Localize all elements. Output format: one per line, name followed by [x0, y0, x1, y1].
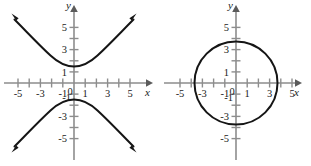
- x-axis-label: x: [293, 86, 299, 98]
- x-tick-label-1: 1: [83, 88, 88, 99]
- x-tick-label-neg5: -5: [176, 88, 185, 99]
- hyperbola-graph-panel: -5 -3 -1 1 3 5 5 3 1 -1 -3 -5 0 x y: [0, 0, 158, 166]
- x-tick-label-5: 5: [127, 88, 132, 99]
- x-tick-label-neg5: -5: [14, 88, 23, 99]
- y-tick-label-5: 5: [62, 22, 67, 33]
- y-tick-label-neg5: -5: [220, 133, 229, 144]
- x-tick-label-1: 1: [245, 88, 250, 99]
- x-tick-label-neg3: -3: [36, 88, 45, 99]
- y-axis-label: y: [227, 0, 233, 11]
- origin-label: 0: [229, 86, 234, 97]
- math-graph-figure: -5 -3 -1 1 3 5 5 3 1 -1 -3 -5 0 x y: [0, 0, 311, 166]
- y-tick-label-neg5: -5: [58, 133, 67, 144]
- x-tick-label-3: 3: [267, 88, 272, 99]
- origin-label: 0: [67, 86, 72, 97]
- y-axis-label: y: [65, 0, 71, 11]
- y-tick-label-neg3: -3: [58, 111, 67, 122]
- circle-svg: -5 -3 -1 1 3 5 5 3 1 -1 -3 -5 0 x y: [158, 0, 311, 166]
- circle-graph-panel: -5 -3 -1 1 3 5 5 3 1 -1 -3 -5 0 x y: [158, 0, 311, 166]
- y-tick-label-5: 5: [224, 22, 229, 33]
- y-tick-label-3: 3: [62, 44, 67, 55]
- y-tick-label-neg3: -3: [220, 111, 229, 122]
- y-tick-label-3: 3: [224, 44, 229, 55]
- x-axis-label: x: [144, 86, 150, 98]
- hyperbola-svg: -5 -3 -1 1 3 5 5 3 1 -1 -3 -5 0 x y: [0, 0, 158, 166]
- y-tick-label-1: 1: [224, 67, 229, 78]
- x-tick-label-neg3: -3: [198, 88, 207, 99]
- x-tick-label-3: 3: [105, 88, 110, 99]
- y-tick-label-1: 1: [62, 67, 67, 78]
